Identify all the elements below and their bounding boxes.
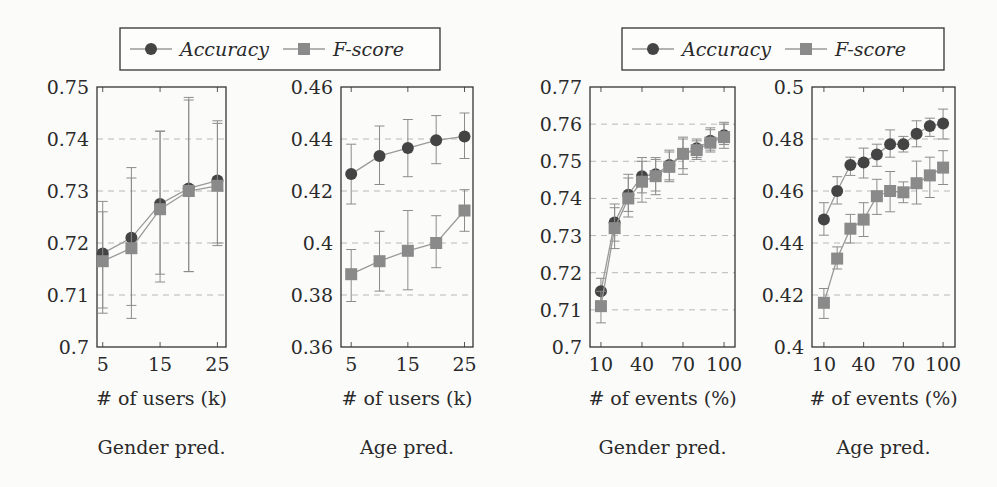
y-tick-label: 0.74 xyxy=(540,187,582,209)
data-point xyxy=(345,168,357,180)
y-tick-label: 0.7 xyxy=(552,336,582,358)
plot-frame xyxy=(97,87,226,347)
data-point xyxy=(622,192,634,204)
data-point xyxy=(831,253,843,265)
x-tick-label: 100 xyxy=(706,353,742,375)
legend-marker-circle-icon xyxy=(647,43,659,55)
x-tick-label: 25 xyxy=(205,353,229,375)
legend-label: F-score xyxy=(834,38,906,60)
x-tick-label: 10 xyxy=(589,353,613,375)
data-point xyxy=(402,245,414,257)
data-point xyxy=(937,117,949,129)
data-point xyxy=(430,237,442,249)
x-axis-label: # of users (k) xyxy=(96,387,227,409)
y-tick-label: 0.4 xyxy=(303,232,333,254)
y-tick-label: 0.42 xyxy=(762,284,804,306)
y-tick-label: 0.77 xyxy=(540,76,582,98)
y-tick-label: 0.71 xyxy=(540,299,582,321)
data-point xyxy=(871,190,883,202)
legend-label: Accuracy xyxy=(178,38,269,60)
x-tick-label: 25 xyxy=(452,353,476,375)
data-point xyxy=(345,268,357,280)
legend-marker-square-icon xyxy=(800,43,812,55)
series-f-score xyxy=(595,124,730,323)
data-point xyxy=(897,186,909,198)
x-tick-label: 5 xyxy=(97,353,109,375)
y-tick-label: 0.74 xyxy=(47,128,89,150)
plot-frame xyxy=(341,87,473,347)
data-point xyxy=(818,297,830,309)
chart-panel-3: 0.70.710.720.730.740.750.760.77104070100… xyxy=(540,76,743,458)
plot-frame xyxy=(590,87,735,347)
legend-1: AccuracyF-score xyxy=(120,28,440,70)
data-point xyxy=(663,161,675,173)
legend-label: F-score xyxy=(332,38,404,60)
data-point xyxy=(871,149,883,161)
x-tick-label: 70 xyxy=(891,353,915,375)
x-tick-label: 15 xyxy=(396,353,420,375)
data-point xyxy=(911,128,923,140)
data-point xyxy=(844,223,856,235)
legend-label: Accuracy xyxy=(680,38,771,60)
series-f-score xyxy=(818,151,949,319)
data-point xyxy=(884,185,896,197)
series-f-score xyxy=(97,97,224,318)
y-tick-label: 0.46 xyxy=(762,180,804,202)
x-tick-label: 5 xyxy=(345,353,357,375)
data-point xyxy=(704,137,716,149)
x-tick-label: 40 xyxy=(852,353,876,375)
data-point xyxy=(844,159,856,171)
series-f-score xyxy=(345,190,470,302)
y-tick-label: 0.72 xyxy=(47,232,89,254)
y-tick-label: 0.72 xyxy=(540,262,582,284)
data-point xyxy=(609,222,621,234)
x-tick-label: 100 xyxy=(925,353,961,375)
data-point xyxy=(911,177,923,189)
data-point xyxy=(897,138,909,150)
series-accuracy xyxy=(345,113,470,204)
data-point xyxy=(97,255,109,267)
chart-caption: Age pred. xyxy=(836,436,931,458)
chart-panel-1: 0.70.710.720.730.740.7551525# of users (… xyxy=(47,76,230,458)
y-tick-label: 0.5 xyxy=(774,76,804,98)
y-tick-label: 0.36 xyxy=(291,336,333,358)
y-tick-label: 0.46 xyxy=(291,76,333,98)
chart-panel-2: 0.360.380.40.420.440.4651525# of users (… xyxy=(291,76,477,458)
data-point xyxy=(636,176,648,188)
x-axis-label: # of users (k) xyxy=(342,387,473,409)
y-tick-label: 0.73 xyxy=(540,225,582,247)
data-point xyxy=(595,300,607,312)
data-point xyxy=(402,142,414,154)
y-tick-label: 0.44 xyxy=(291,128,333,150)
chart-caption: Gender pred. xyxy=(98,436,226,458)
data-point xyxy=(374,255,386,267)
data-point xyxy=(459,205,471,217)
data-point xyxy=(924,169,936,181)
data-point xyxy=(937,162,949,174)
series-accuracy xyxy=(595,122,730,304)
chart-caption: Age pred. xyxy=(359,436,454,458)
data-point xyxy=(831,185,843,197)
data-point xyxy=(650,170,662,182)
y-tick-label: 0.71 xyxy=(47,284,89,306)
x-axis-label: # of events (%) xyxy=(588,387,736,409)
x-axis-label: # of events (%) xyxy=(809,387,957,409)
x-tick-label: 70 xyxy=(671,353,695,375)
y-tick-label: 0.75 xyxy=(47,76,89,98)
legend-marker-circle-icon xyxy=(145,43,157,55)
data-point xyxy=(211,180,223,192)
y-tick-label: 0.76 xyxy=(540,113,582,135)
x-tick-label: 10 xyxy=(812,353,836,375)
data-point xyxy=(183,185,195,197)
data-point xyxy=(924,120,936,132)
data-point xyxy=(818,214,830,226)
legend-marker-square-icon xyxy=(298,43,310,55)
data-point xyxy=(858,156,870,168)
x-tick-label: 40 xyxy=(630,353,654,375)
data-point xyxy=(125,242,137,254)
y-tick-label: 0.38 xyxy=(291,284,333,306)
y-tick-label: 0.44 xyxy=(762,232,804,254)
data-point xyxy=(691,144,703,156)
data-point xyxy=(430,134,442,146)
y-tick-label: 0.75 xyxy=(540,150,582,172)
